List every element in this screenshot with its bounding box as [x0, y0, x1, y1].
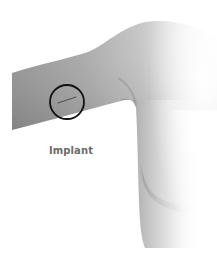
arm-drawing — [0, 0, 217, 267]
implant-label: Implant — [41, 145, 101, 156]
arm-illustration — [0, 0, 217, 267]
